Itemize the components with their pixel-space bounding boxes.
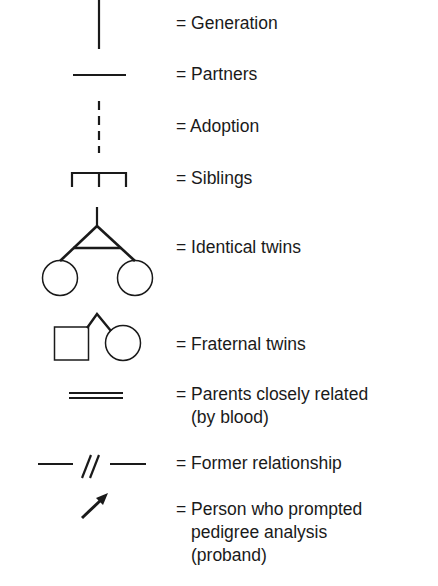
consanguinity-double-line-icon (69, 393, 123, 398)
siblings-bracket-icon (72, 173, 126, 187)
label-text: = Adoption (176, 116, 259, 136)
former-relationship-line-icon (38, 455, 146, 478)
legend-label-consanguinity: = Parents closely related (by blood) (176, 383, 368, 429)
label-text: = Partners (176, 64, 257, 84)
label-text: = Former relationship (176, 453, 342, 473)
legend-label-identical-twins: = Identical twins (176, 236, 301, 259)
label-text: = Fraternal twins (176, 334, 306, 354)
label-text: = Parents closely related (176, 384, 368, 404)
fraternal-twins-icon (55, 314, 141, 361)
legend-label-generation: = Generation (176, 12, 278, 35)
legend-label-proband: = Person who prompted pedigree analysis … (176, 498, 362, 567)
label-text: = Identical twins (176, 237, 301, 257)
legend-label-fraternal-twins: = Fraternal twins (176, 333, 306, 356)
legend-label-adoption: = Adoption (176, 115, 259, 138)
label-text: = Siblings (176, 168, 252, 188)
label-text-continued: pedigree analysis (176, 521, 362, 544)
label-text: = Generation (176, 13, 278, 33)
proband-arrow-icon (82, 493, 108, 518)
label-text: = Person who prompted (176, 499, 362, 519)
identical-twins-icon (43, 207, 153, 296)
legend-label-former-relationship: = Former relationship (176, 452, 342, 475)
legend-label-partners: = Partners (176, 63, 257, 86)
legend-label-siblings: = Siblings (176, 167, 252, 190)
label-text-continued: (proband) (176, 544, 362, 567)
label-text-continued: (by blood) (176, 406, 368, 429)
